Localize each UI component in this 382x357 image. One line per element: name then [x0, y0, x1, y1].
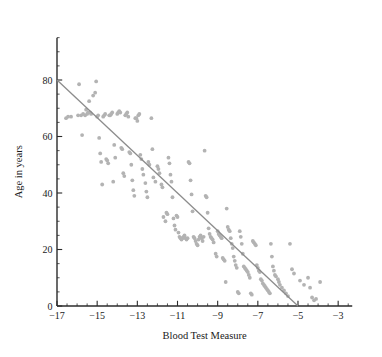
- plot-canvas: −17−15−13−11−9−7−5−3020406080Blood Test …: [0, 0, 382, 357]
- scatter-point: [137, 112, 141, 116]
- x-axis-title: Blood Test Measure: [162, 330, 247, 341]
- scatter-point: [93, 91, 97, 95]
- scatter-point: [248, 276, 252, 280]
- scatter-point: [233, 259, 237, 263]
- scatter-plot-figure: −17−15−13−11−9−7−5−3020406080Blood Test …: [0, 0, 382, 357]
- scatter-point: [157, 167, 161, 171]
- scatter-point: [272, 269, 276, 273]
- scatter-point: [131, 188, 135, 192]
- scatter-point: [110, 111, 114, 115]
- scatter-point: [250, 293, 254, 297]
- scatter-point: [176, 215, 180, 219]
- scatter-point: [166, 212, 170, 216]
- scatter-point: [172, 217, 176, 221]
- y-axis-tick-label: 60: [43, 131, 53, 142]
- scatter-point: [173, 224, 177, 228]
- scatter-points-group: [64, 80, 322, 303]
- scatter-point: [80, 133, 84, 137]
- scatter-point: [302, 283, 306, 287]
- scatter-point: [235, 266, 239, 270]
- scatter-point: [149, 116, 153, 120]
- scatter-point: [225, 207, 229, 211]
- scatter-point: [202, 235, 206, 239]
- scatter-point: [106, 161, 110, 165]
- scatter-point: [232, 255, 236, 259]
- scatter-point: [164, 219, 168, 223]
- scatter-point: [269, 242, 273, 246]
- scatter-point: [314, 297, 318, 301]
- scatter-point: [140, 167, 144, 171]
- y-axis-title: Age in years: [13, 145, 24, 198]
- scatter-point: [298, 279, 302, 283]
- scatter-point: [69, 115, 73, 119]
- scatter-point: [143, 181, 147, 185]
- scatter-point: [162, 215, 166, 219]
- scatter-point: [145, 195, 149, 199]
- scatter-point: [240, 242, 244, 246]
- scatter-point: [270, 255, 274, 259]
- scatter-point: [94, 80, 98, 84]
- scatter-point: [130, 178, 134, 182]
- scatter-point: [169, 173, 173, 177]
- scatter-point: [118, 111, 122, 115]
- x-axis-tick-label: −9: [212, 310, 223, 321]
- scatter-point: [188, 161, 192, 165]
- scatter-point: [229, 236, 233, 240]
- scatter-point: [152, 176, 156, 180]
- scatter-point: [254, 243, 258, 247]
- scatter-point: [239, 235, 243, 239]
- scatter-point: [189, 178, 193, 182]
- scatter-point: [191, 209, 195, 213]
- y-axis-tick-label: 0: [48, 301, 53, 312]
- scatter-point: [97, 136, 101, 140]
- scatter-point: [128, 152, 132, 156]
- scatter-point: [306, 276, 310, 280]
- scatter-point: [237, 291, 241, 295]
- scatter-point: [223, 259, 227, 263]
- scatter-point: [318, 280, 322, 284]
- scatter-point: [161, 185, 165, 189]
- scatter-point: [77, 82, 81, 86]
- scatter-point: [203, 149, 207, 153]
- y-axis-tick-label: 40: [43, 188, 53, 199]
- scatter-point: [190, 193, 194, 197]
- scatter-point: [224, 280, 228, 284]
- scatter-point: [174, 228, 178, 232]
- scatter-point: [122, 174, 126, 178]
- scatter-point: [111, 180, 115, 184]
- x-axis-tick-label: −13: [130, 310, 146, 321]
- scatter-point: [141, 173, 145, 177]
- scatter-point: [212, 241, 216, 245]
- x-axis-tick-label: −11: [170, 310, 185, 321]
- scatter-point: [135, 119, 139, 123]
- scatter-point: [129, 163, 133, 167]
- scatter-point: [288, 242, 292, 246]
- scatter-point: [151, 147, 155, 151]
- scatter-point: [99, 160, 103, 164]
- scatter-point: [238, 229, 242, 233]
- y-axis-tick-label: 20: [43, 244, 53, 255]
- scatter-point: [170, 180, 174, 184]
- scatter-point: [220, 236, 224, 240]
- scatter-point: [100, 183, 104, 187]
- regression-line: [57, 80, 298, 306]
- scatter-point: [292, 272, 296, 276]
- y-axis-tick-label: 80: [43, 75, 53, 86]
- scatter-point: [271, 265, 275, 269]
- scatter-point: [113, 156, 117, 160]
- scatter-point: [268, 291, 272, 295]
- scatter-point: [98, 152, 102, 156]
- scatter-point: [125, 111, 129, 115]
- scatter-point: [308, 286, 312, 290]
- x-axis-tick-label: −5: [293, 310, 304, 321]
- scatter-point: [196, 243, 200, 247]
- scatter-point: [290, 267, 294, 271]
- scatter-point: [205, 195, 209, 199]
- scatter-point: [206, 211, 210, 215]
- x-axis-tick-label: −7: [253, 310, 264, 321]
- scatter-point: [171, 195, 175, 199]
- scatter-point: [132, 194, 136, 198]
- scatter-point: [177, 231, 181, 235]
- scatter-point: [103, 112, 107, 116]
- scatter-point: [87, 99, 91, 103]
